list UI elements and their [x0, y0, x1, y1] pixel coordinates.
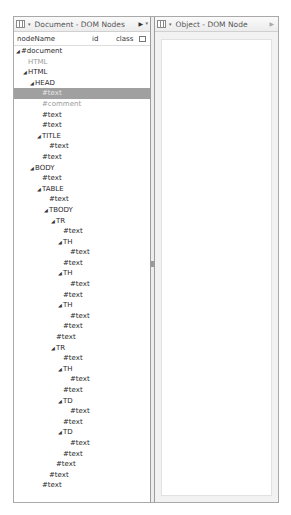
tree-node-label: #text [63, 291, 83, 299]
tree-node[interactable]: ◢HEAD [14, 78, 150, 89]
tree-node[interactable]: ◢TH [14, 268, 150, 279]
tree-node[interactable]: #text [14, 321, 150, 332]
tree-node-label: #text [42, 89, 62, 97]
tree-node-selected[interactable]: #text [14, 88, 150, 99]
tree-node[interactable]: #text [14, 120, 150, 131]
tree-node[interactable]: #comment [14, 99, 150, 110]
tree-node-label: #text [42, 174, 62, 182]
tree-node[interactable]: ◢TD [14, 427, 150, 438]
tree-node[interactable]: ◢TR [14, 343, 150, 354]
tree-node-label: TITLE [42, 132, 61, 140]
tree-node-label: #text [49, 142, 69, 150]
column-header-nodename[interactable]: nodeName [17, 35, 55, 43]
tree-node-label: TBODY [49, 206, 73, 214]
tree-node[interactable]: #text [14, 141, 150, 152]
tree-node[interactable]: #text [14, 279, 150, 290]
tree-node[interactable]: #text [14, 385, 150, 396]
tree-node-label: #text [42, 121, 62, 129]
tree-node-label: #text [63, 418, 83, 426]
tree-node-label: #text [63, 354, 83, 362]
tree-node-label: #text [56, 333, 76, 341]
dom-tree: ◢#documentHTML◢HTML◢HEAD#text#comment#te… [14, 46, 150, 491]
tree-node[interactable]: #text [14, 332, 150, 343]
column-chooser-icon[interactable] [139, 36, 146, 42]
nav-arrow-icon[interactable]: ▶ [269, 20, 274, 27]
tree-node-label: TH [63, 365, 73, 373]
tree-node-label: HTML [28, 68, 47, 76]
tree-node[interactable]: #text [14, 311, 150, 322]
grid-view-icon[interactable] [16, 20, 25, 28]
dom-explorer-window: ▾ Document - DOM Nodes ▶ ▾ nodeName id c… [13, 16, 279, 503]
tree-node[interactable]: #text [14, 258, 150, 269]
tree-node-label: TH [63, 301, 73, 309]
tree-node-label: #comment [42, 100, 81, 108]
tree-node[interactable]: ◢TD [14, 396, 150, 407]
tree-node-label: #text [49, 471, 69, 479]
column-header-id[interactable]: id [92, 35, 98, 43]
dom-node-object-panel: ▾ Object - DOM Node ▶ [154, 17, 278, 502]
tree-node-label: #text [63, 259, 83, 267]
tree-node[interactable]: #text [14, 290, 150, 301]
tree-node[interactable]: #text [14, 247, 150, 258]
tree-node-label: TD [63, 397, 73, 405]
tree-node[interactable]: #text [14, 110, 150, 121]
panel-title: Object - DOM Node [176, 20, 248, 29]
tree-node[interactable]: ◢TITLE [14, 131, 150, 142]
tree-node-label: TR [56, 344, 65, 352]
tree-node-label: TABLE [42, 185, 64, 193]
tree-node[interactable]: #text [14, 459, 150, 470]
tree-node-label: #text [63, 386, 83, 394]
tree-node-label: #text [49, 195, 69, 203]
tree-node[interactable]: ◢#document [14, 46, 150, 57]
tree-node-label: #text [70, 248, 90, 256]
tree-node[interactable]: #text [14, 406, 150, 417]
tree-node-label: #text [42, 481, 62, 489]
nav-arrow-icon[interactable]: ▶ [138, 20, 143, 27]
object-properties-area [161, 39, 272, 496]
tree-node-label: #text [70, 439, 90, 447]
tree-node-label: HTML [28, 58, 47, 66]
dom-nodes-titlebar: ▾ Document - DOM Nodes ▶ ▾ [14, 17, 150, 32]
tree-node-label: #text [42, 153, 62, 161]
tree-node-label: #text [63, 450, 83, 458]
tree-node[interactable]: #text [14, 353, 150, 364]
tree-node[interactable]: ◢TH [14, 237, 150, 248]
chevron-down-icon[interactable]: ▾ [169, 21, 172, 27]
tree-node[interactable]: #text [14, 226, 150, 237]
tree-node[interactable]: #text [14, 374, 150, 385]
tree-node-label: #text [42, 111, 62, 119]
tree-node-label: HEAD [35, 79, 55, 87]
tree-node[interactable]: ◢TH [14, 300, 150, 311]
tree-node[interactable]: #text [14, 152, 150, 163]
chevron-down-icon[interactable]: ▾ [145, 20, 148, 26]
column-header-row: nodeName id class [14, 32, 150, 46]
tree-node[interactable]: #text [14, 438, 150, 449]
tree-node[interactable]: ◢TABLE [14, 184, 150, 195]
tree-node-label: TH [63, 269, 73, 277]
tree-node-label: #text [56, 460, 76, 468]
tree-node-label: #document [21, 47, 62, 55]
tree-node-label: BODY [35, 164, 54, 172]
tree-node-label: #text [70, 407, 90, 415]
tree-node[interactable]: #text [14, 194, 150, 205]
tree-node[interactable]: ◢BODY [14, 163, 150, 174]
tree-node[interactable]: #text [14, 449, 150, 460]
chevron-down-icon[interactable]: ▾ [28, 21, 31, 27]
tree-node-label: TH [63, 238, 73, 246]
tree-node[interactable]: ◢HTML [14, 67, 150, 78]
tree-node[interactable]: #text [14, 417, 150, 428]
tree-node[interactable]: ◢TR [14, 216, 150, 227]
object-titlebar: ▾ Object - DOM Node ▶ [155, 17, 278, 32]
tree-node[interactable]: HTML [14, 57, 150, 68]
tree-node[interactable]: #text [14, 480, 150, 491]
tree-node-label: #text [63, 322, 83, 330]
tree-node[interactable]: #text [14, 173, 150, 184]
grid-view-icon[interactable] [157, 20, 166, 28]
dom-nodes-panel: ▾ Document - DOM Nodes ▶ ▾ nodeName id c… [14, 17, 151, 502]
tree-node[interactable]: ◢TBODY [14, 205, 150, 216]
tree-node[interactable]: ◢TH [14, 364, 150, 375]
tree-node-label: #text [63, 227, 83, 235]
column-header-class[interactable]: class [116, 35, 133, 43]
tree-node[interactable]: #text [14, 470, 150, 481]
tree-node-label: #text [70, 312, 90, 320]
